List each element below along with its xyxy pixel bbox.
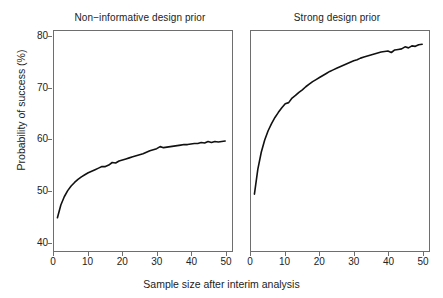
x-axis-label: Sample size after interim analysis [0, 278, 443, 290]
y-tick-label-60: 60 [26, 133, 48, 144]
x-tick-label-left-40: 40 [181, 256, 201, 267]
y-tick-mark-70 [48, 88, 52, 89]
panel-title-right: Strong design prior [244, 12, 430, 23]
y-tick-mark-60 [48, 139, 52, 140]
y-tick-mark-80 [48, 36, 52, 37]
y-tick-label-70: 70 [26, 82, 48, 93]
x-tick-label-right-50: 50 [413, 256, 433, 267]
x-tick-label-left-10: 10 [78, 256, 98, 267]
x-axis-ticks-left: 01020304050 [53, 252, 233, 272]
data-series-line [57, 141, 225, 218]
data-series-line [254, 44, 422, 194]
y-axis-tick-labels: 4050607080 [26, 30, 48, 252]
x-tick-label-right-10: 10 [275, 256, 295, 267]
x-tick-label-right-30: 30 [344, 256, 364, 267]
y-tick-mark-50 [48, 191, 52, 192]
x-tick-label-left-30: 30 [147, 256, 167, 267]
x-tick-label-left-50: 50 [216, 256, 236, 267]
y-tick-label-50: 50 [26, 185, 48, 196]
panel-title-left: Non−informative design prior [47, 12, 233, 23]
x-tick-label-left-0: 0 [43, 256, 63, 267]
plot-area-right [251, 31, 429, 251]
y-tick-label-40: 40 [26, 237, 48, 248]
x-tick-label-right-40: 40 [378, 256, 398, 267]
x-tick-label-right-20: 20 [309, 256, 329, 267]
plot-panel-right [250, 30, 430, 252]
x-tick-label-left-20: 20 [112, 256, 132, 267]
figure-container: Non−informative design prior Strong desi… [0, 0, 443, 298]
y-tick-label-80: 80 [26, 30, 48, 41]
y-tick-mark-40 [48, 243, 52, 244]
plot-area-left [54, 31, 232, 251]
plot-panel-left [53, 30, 233, 252]
x-tick-label-right-0: 0 [240, 256, 260, 267]
y-axis-label: Probability of success (%) [15, 15, 27, 205]
x-axis-ticks-right: 01020304050 [250, 252, 430, 272]
